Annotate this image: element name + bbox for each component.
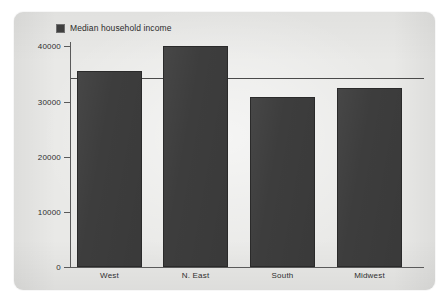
y-tick-mark-0	[64, 267, 70, 268]
y-tick-mark-10000	[64, 212, 70, 213]
y-tick-label-20000: 20000	[17, 153, 61, 162]
y-tick-mark-40000	[64, 46, 70, 47]
y-tick-mark-20000	[64, 157, 70, 158]
bar-midwest-sheen	[338, 89, 401, 266]
y-tick-mark-30000	[64, 102, 70, 103]
x-tick-label-n-east: N. East	[163, 271, 228, 280]
y-tick-label-0: 0	[17, 263, 61, 272]
bar-west-sheen	[78, 72, 141, 266]
y-tick-label-40000: 40000	[17, 42, 61, 51]
bar-south-sheen	[251, 98, 314, 266]
chart-card: Median household income 0 10000 20000 30…	[14, 12, 435, 290]
y-tick-label-10000: 10000	[17, 208, 61, 217]
bar-n-east[interactable]	[163, 46, 228, 267]
bar-n-east-sheen	[164, 47, 227, 266]
plot-area: 0 10000 20000 30000 40000	[14, 12, 435, 290]
x-axis-line	[70, 267, 424, 268]
y-tick-label-30000: 30000	[17, 98, 61, 107]
x-tick-label-south: South	[250, 271, 315, 280]
y-axis-line	[70, 42, 71, 268]
x-tick-label-west: West	[77, 271, 142, 280]
bar-south[interactable]	[250, 97, 315, 267]
bar-midwest[interactable]	[337, 88, 402, 267]
x-tick-label-midwest: Midwest	[337, 271, 402, 280]
bar-west[interactable]	[77, 71, 142, 267]
